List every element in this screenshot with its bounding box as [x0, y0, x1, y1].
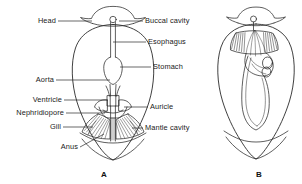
figure-drawing [0, 0, 302, 184]
stomach-shape [104, 57, 122, 85]
panel-b-drawing [218, 7, 294, 159]
mantle-edge-line [80, 133, 146, 143]
auricle-right [119, 100, 132, 111]
foot-outline-b [226, 137, 286, 159]
buccal-cavity-shape [110, 16, 116, 22]
mantle-edge-line-b [224, 131, 288, 142]
ventricle-walls [110, 96, 116, 106]
pericardium [107, 96, 119, 106]
fan-striations-left [232, 33, 246, 52]
label-stomach: Stomach [153, 63, 183, 70]
fan-striations-right [264, 33, 278, 52]
label-esophagus: Esophagus [148, 38, 186, 45]
head-outline [81, 6, 146, 23]
label-gill: Gill [0, 123, 61, 130]
label-auricle: Auricle [150, 103, 173, 110]
panel-a-drawing [72, 6, 153, 160]
label-nephridiopore: Nephridiopore [0, 109, 64, 116]
foot-outline [82, 139, 144, 160]
auricle-left [95, 100, 108, 111]
panel-letter-b: B [256, 171, 262, 179]
buccal-cavity-shape-b [251, 16, 257, 22]
fan-radials [246, 31, 266, 57]
nephridium [99, 107, 127, 118]
aorta-right [115, 85, 116, 97]
label-buccal-cavity: Buccal cavity [145, 17, 189, 24]
visceral-loop-1 [250, 58, 272, 68]
label-head: Head [0, 17, 56, 24]
label-mantle-cavity: Mantle cavity [145, 124, 189, 131]
body-outline-b [218, 24, 294, 159]
anatomy-figure: Head Aorta Ventricle Nephridiopore Gill … [0, 0, 302, 184]
digestive-right [117, 86, 120, 96]
aorta-left [110, 85, 111, 97]
body-outline [72, 25, 153, 161]
label-aorta: Aorta [0, 76, 54, 83]
label-anus: Anus [0, 143, 78, 150]
foot-inner-loop-3 [257, 78, 265, 126]
panel-letter-a: A [101, 171, 107, 179]
digestive-left [106, 86, 109, 96]
rectum-lines [112, 118, 114, 140]
visceral-loop-2 [252, 64, 266, 74]
label-ventricle: Ventricle [0, 96, 62, 103]
